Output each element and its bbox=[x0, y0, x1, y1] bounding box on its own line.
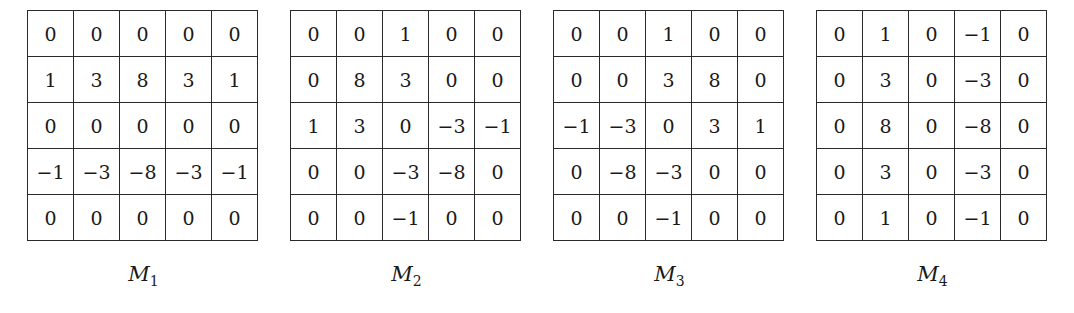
matrix-cell: 0 bbox=[554, 149, 600, 195]
matrix-cell: 3 bbox=[337, 103, 383, 149]
matrix-cell: 0 bbox=[429, 195, 475, 241]
matrix-cell: 0 bbox=[692, 149, 738, 195]
matrix-cell: −1 bbox=[554, 103, 600, 149]
matrix-grid: 000001383100000−1−3−8−3−100000 bbox=[27, 10, 258, 241]
matrix-cell: 0 bbox=[120, 103, 166, 149]
matrix-cell: 0 bbox=[166, 11, 212, 57]
matrix-label-name: M bbox=[654, 262, 676, 286]
matrix-cell: 0 bbox=[554, 57, 600, 103]
matrix-m3: 0010000380−1−30310−8−30000−100 bbox=[553, 10, 784, 241]
matrix-cell: 0 bbox=[909, 195, 955, 241]
matrix-cell: 0 bbox=[166, 103, 212, 149]
matrix-cell: 0 bbox=[212, 195, 258, 241]
matrix-cell: 1 bbox=[28, 57, 74, 103]
matrix-cell: 0 bbox=[738, 149, 784, 195]
matrix-cell: 3 bbox=[166, 57, 212, 103]
matrix-cell: 0 bbox=[337, 11, 383, 57]
matrix-row: 00380 bbox=[554, 57, 784, 103]
matrix-cell: 0 bbox=[475, 195, 521, 241]
matrix-cell: 1 bbox=[863, 195, 909, 241]
matrix-cell: 0 bbox=[738, 195, 784, 241]
matrix-cell: 0 bbox=[429, 57, 475, 103]
matrix-cell: −1 bbox=[955, 195, 1001, 241]
matrix-cell: 0 bbox=[337, 195, 383, 241]
matrix-cell: 8 bbox=[863, 103, 909, 149]
matrix-cell: 1 bbox=[738, 103, 784, 149]
matrix-cell: −3 bbox=[383, 149, 429, 195]
matrix-cell: 0 bbox=[74, 103, 120, 149]
matrix-label: M1 bbox=[27, 262, 260, 289]
matrix-cell: 0 bbox=[475, 57, 521, 103]
matrix-label: M4 bbox=[816, 262, 1049, 289]
matrix-cell: 0 bbox=[291, 11, 337, 57]
matrix-cell: 8 bbox=[337, 57, 383, 103]
matrix-grid: 0010008300130−3−100−3−8000−100 bbox=[290, 10, 521, 241]
matrix-cell: −8 bbox=[600, 149, 646, 195]
matrix-label-name: M bbox=[128, 262, 150, 286]
matrix-row: 080−80 bbox=[817, 103, 1047, 149]
matrix-row: 00−100 bbox=[554, 195, 784, 241]
matrix-row: 030−30 bbox=[817, 149, 1047, 195]
matrix-row: 130−3−1 bbox=[291, 103, 521, 149]
matrix-cell: −3 bbox=[955, 149, 1001, 195]
matrix-cell: 0 bbox=[600, 11, 646, 57]
matrix-cell: −3 bbox=[646, 149, 692, 195]
matrix-cell: −3 bbox=[429, 103, 475, 149]
matrix-cell: 0 bbox=[28, 11, 74, 57]
matrix-cell: 3 bbox=[74, 57, 120, 103]
matrix-cell: 0 bbox=[383, 103, 429, 149]
matrix-cell: 0 bbox=[817, 57, 863, 103]
matrix-label-subscript: 2 bbox=[413, 273, 422, 289]
matrix-cell: 0 bbox=[28, 103, 74, 149]
matrix-cell: 0 bbox=[554, 11, 600, 57]
matrix-cell: 0 bbox=[692, 195, 738, 241]
matrix-cell: −3 bbox=[166, 149, 212, 195]
matrix-row: 0−8−300 bbox=[554, 149, 784, 195]
matrix-cell: 1 bbox=[863, 11, 909, 57]
matrix-cell: 8 bbox=[120, 57, 166, 103]
matrix-cell: 0 bbox=[600, 57, 646, 103]
matrix-cell: −3 bbox=[600, 103, 646, 149]
matrix-row: 08300 bbox=[291, 57, 521, 103]
matrix-cell: 0 bbox=[120, 11, 166, 57]
matrix-cell: 3 bbox=[383, 57, 429, 103]
matrix-row: 00000 bbox=[28, 195, 258, 241]
matrix-cell: 0 bbox=[429, 11, 475, 57]
matrix-cell: 0 bbox=[909, 103, 955, 149]
matrix-row: 010−10 bbox=[817, 195, 1047, 241]
matrix-cell: 0 bbox=[909, 149, 955, 195]
matrix-row: 00100 bbox=[291, 11, 521, 57]
matrix-row: 00−3−80 bbox=[291, 149, 521, 195]
matrix-cell: 1 bbox=[383, 11, 429, 57]
matrix-row: 13831 bbox=[28, 57, 258, 103]
matrix-cell: 0 bbox=[475, 11, 521, 57]
matrix-cell: 0 bbox=[475, 149, 521, 195]
matrix-label-subscript: 4 bbox=[939, 273, 948, 289]
matrix-cell: −3 bbox=[74, 149, 120, 195]
matrix-cell: 0 bbox=[554, 195, 600, 241]
matrix-cell: 0 bbox=[291, 57, 337, 103]
matrix-row: 00100 bbox=[554, 11, 784, 57]
matrix-cell: 0 bbox=[817, 195, 863, 241]
matrix-cell: 0 bbox=[212, 103, 258, 149]
matrix-cell: −1 bbox=[383, 195, 429, 241]
matrix-cell: 0 bbox=[692, 11, 738, 57]
matrix-cell: 3 bbox=[863, 149, 909, 195]
matrix-cell: 0 bbox=[1001, 103, 1047, 149]
matrix-row: 00−100 bbox=[291, 195, 521, 241]
matrix-row: 030−30 bbox=[817, 57, 1047, 103]
matrix-grid: 010−10030−30080−80030−30010−10 bbox=[816, 10, 1047, 241]
matrix-cell: −8 bbox=[955, 103, 1001, 149]
matrix-cell: 0 bbox=[1001, 57, 1047, 103]
matrix-cell: 0 bbox=[28, 195, 74, 241]
matrix-cell: −1 bbox=[28, 149, 74, 195]
matrix-cell: −1 bbox=[955, 11, 1001, 57]
matrix-cell: 0 bbox=[1001, 149, 1047, 195]
matrix-cell: 0 bbox=[1001, 11, 1047, 57]
matrix-cell: 0 bbox=[74, 11, 120, 57]
matrix-cell: 3 bbox=[692, 103, 738, 149]
matrix-cell: 3 bbox=[863, 57, 909, 103]
matrix-cell: 0 bbox=[1001, 195, 1047, 241]
matrix-cell: 0 bbox=[291, 149, 337, 195]
matrix-cell: 0 bbox=[337, 149, 383, 195]
